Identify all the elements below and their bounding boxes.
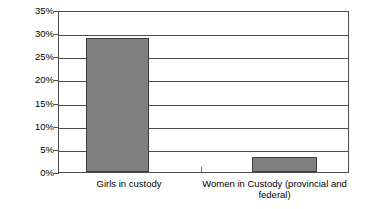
y-tick-label: 30%: [4, 29, 54, 39]
y-tick-label: 5%: [4, 145, 54, 155]
gridline: [59, 35, 348, 36]
y-tick-label: 25%: [4, 53, 54, 63]
x-tick-label-girls: Girls in custody: [58, 178, 200, 189]
category-divider-tick: [201, 167, 202, 173]
y-tick-label: 0%: [4, 168, 54, 178]
plot-area: [58, 11, 349, 173]
bar-girls-in-custody: [86, 38, 149, 172]
x-axis: Girls in custody Women in Custody (provi…: [58, 178, 349, 209]
y-axis: 35% 30% 25% 20% 15% 10% 5% 0%: [0, 0, 54, 209]
y-tick-label: 20%: [4, 76, 54, 86]
y-tick-label: 10%: [4, 122, 54, 132]
y-tick-label: 35%: [4, 6, 54, 16]
bar-women-in-custody: [252, 157, 317, 172]
x-tick-label-women: Women in Custody (provincial and federal…: [200, 178, 349, 200]
bar-chart: 35% 30% 25% 20% 15% 10% 5% 0% Girls in c…: [0, 0, 372, 209]
y-tick-label: 15%: [4, 99, 54, 109]
